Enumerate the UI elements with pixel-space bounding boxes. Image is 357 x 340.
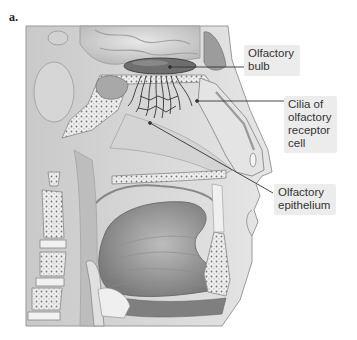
label-line: Cilia of: [288, 98, 331, 111]
label-olfactory-epithelium: Olfactory epithelium: [274, 184, 336, 215]
head-sagittal-illustration: [0, 0, 357, 340]
olfactory-bulb: [124, 58, 196, 74]
label-line: epithelium: [278, 199, 330, 212]
label-line: Olfactory: [248, 47, 294, 60]
label-olfactory-bulb: Olfactory bulb: [244, 45, 300, 76]
label-cilia-of-olfactory-receptor-cell: Cilia of olfactory receptor cell: [284, 96, 337, 153]
label-line: receptor: [288, 124, 331, 137]
label-line: bulb: [248, 60, 294, 73]
label-line: Olfactory: [278, 186, 330, 199]
label-line: olfactory: [288, 111, 331, 124]
label-line: cell: [288, 137, 331, 150]
